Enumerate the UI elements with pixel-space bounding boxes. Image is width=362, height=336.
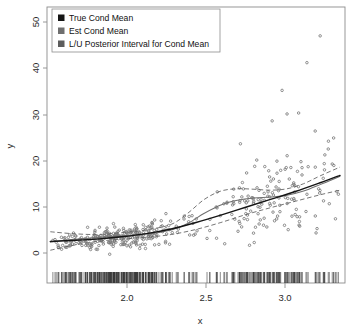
data-point — [248, 244, 251, 247]
data-point — [286, 154, 289, 157]
data-point — [314, 215, 317, 218]
data-point — [287, 228, 290, 231]
x-tick-label-2-0: 2.0 — [120, 292, 133, 303]
data-point — [332, 137, 335, 140]
data-point — [253, 165, 256, 168]
data-point — [306, 193, 309, 196]
data-point — [256, 187, 259, 190]
data-point — [273, 202, 276, 205]
data-point — [206, 237, 209, 240]
data-point — [268, 176, 271, 179]
data-point — [188, 215, 191, 218]
data-point — [232, 195, 235, 198]
legend: True Cond Mean Est Cond Mean L/U Posteri… — [52, 9, 220, 52]
data-point — [215, 237, 218, 240]
scatter-plot-canvas: 0 10 20 30 40 50 y 2.0 2.5 3.0 x — [0, 0, 362, 336]
data-point — [165, 212, 168, 215]
data-point — [301, 174, 304, 177]
data-point — [89, 248, 92, 251]
data-point — [247, 200, 250, 203]
data-point — [247, 195, 250, 198]
lower-posterior-interval-curve — [50, 190, 340, 250]
data-point — [67, 236, 70, 239]
data-point — [276, 172, 279, 175]
data-point — [209, 229, 212, 232]
data-point — [188, 234, 191, 237]
data-point — [168, 243, 171, 246]
data-point — [253, 241, 256, 244]
data-point — [314, 166, 317, 169]
data-point — [296, 170, 299, 173]
data-point-outlier — [306, 61, 309, 64]
data-point — [319, 189, 322, 192]
data-point — [237, 230, 240, 233]
data-point — [114, 226, 117, 229]
legend-swatch-true-cond-mean — [58, 15, 65, 22]
data-point — [278, 180, 281, 183]
x-axis-tick-labels: 2.0 2.5 3.0 — [120, 292, 291, 303]
data-point — [134, 223, 137, 226]
data-point — [272, 178, 275, 181]
x-tick-label-2-5: 2.5 — [199, 292, 212, 303]
data-point — [259, 219, 262, 222]
data-point — [144, 243, 147, 246]
data-point — [69, 234, 72, 237]
x-tick-label-3-0: 3.0 — [278, 292, 291, 303]
data-point — [298, 220, 301, 223]
data-point — [153, 219, 156, 222]
rug-plot — [53, 272, 339, 283]
data-point — [327, 148, 330, 151]
y-axis-tick-labels: 0 10 20 30 40 50 — [30, 17, 41, 256]
data-point — [266, 226, 269, 229]
data-point — [279, 169, 282, 172]
data-point — [333, 164, 336, 167]
data-point — [246, 218, 249, 221]
data-point — [300, 160, 303, 163]
data-point — [276, 215, 279, 218]
data-point — [98, 226, 101, 229]
data-point — [54, 238, 57, 241]
data-point — [334, 218, 337, 221]
x-axis-ticks — [127, 283, 285, 288]
data-point-outlier — [281, 89, 284, 92]
data-point — [239, 222, 242, 225]
data-point — [245, 172, 248, 175]
data-point — [278, 188, 281, 191]
data-point — [288, 178, 291, 181]
data-point — [316, 227, 319, 230]
data-point — [194, 233, 197, 236]
data-point — [196, 230, 199, 233]
data-point — [272, 194, 275, 197]
data-point — [144, 247, 147, 250]
data-point — [223, 243, 226, 246]
data-point — [337, 193, 340, 196]
data-point — [305, 210, 308, 213]
data-point — [279, 210, 282, 213]
data-point — [136, 228, 139, 231]
data-point — [257, 198, 260, 201]
data-point — [318, 192, 321, 195]
data-point — [75, 242, 78, 245]
data-point — [153, 244, 156, 247]
data-point — [283, 224, 286, 227]
data-point — [285, 166, 288, 169]
data-point — [158, 243, 161, 246]
data-point — [148, 230, 151, 233]
chart-figure: 0 10 20 30 40 50 y 2.0 2.5 3.0 x — [0, 0, 362, 336]
data-point — [315, 232, 318, 235]
data-point — [112, 222, 115, 225]
data-point — [231, 213, 234, 216]
data-point — [301, 166, 304, 169]
data-point — [275, 218, 278, 221]
fitted-curve-layer — [50, 167, 340, 250]
data-point — [252, 232, 255, 235]
data-point — [160, 219, 163, 222]
y-tick-label-30: 30 — [30, 110, 41, 121]
data-point — [323, 169, 326, 172]
data-point — [108, 253, 111, 256]
data-point — [106, 227, 109, 230]
data-point-outlier — [286, 113, 289, 116]
y-axis-ticks — [43, 22, 47, 253]
data-point — [324, 154, 327, 157]
legend-label-true-cond-mean: True Cond Mean — [69, 13, 133, 23]
